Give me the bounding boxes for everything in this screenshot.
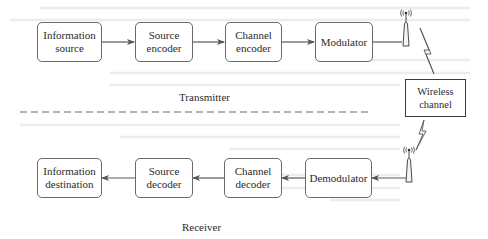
block-line2: encoder	[147, 42, 182, 55]
block-channel-decoder: Channel decoder	[224, 158, 282, 198]
transmitter-label: Transmitter	[179, 91, 230, 103]
block-line1: Channel	[235, 165, 272, 178]
block-line1: Modulator	[321, 36, 367, 49]
lightning-bolt-receive-icon	[416, 120, 426, 150]
block-source-decoder: Source decoder	[135, 158, 193, 198]
block-line1: Information	[43, 29, 96, 42]
block-information-destination: Information destination	[37, 158, 102, 198]
block-line2: decoder	[235, 178, 272, 191]
block-line1: Source	[147, 165, 182, 178]
block-line1: Information	[43, 165, 96, 178]
block-line1: Source	[147, 29, 182, 42]
block-channel-encoder: Channel encoder	[225, 22, 282, 62]
block-line2: decoder	[147, 178, 182, 191]
receiver-label: Receiver	[182, 221, 221, 233]
lightning-bolt-transmit-icon	[420, 28, 434, 74]
transmit-antenna-icon	[401, 10, 412, 47]
block-demodulator: Demodulator	[305, 158, 372, 198]
block-line2: source	[43, 42, 96, 55]
block-source-encoder: Source encoder	[135, 22, 193, 62]
block-information-source: Information source	[37, 22, 102, 62]
block-line1: Channel	[235, 29, 272, 42]
block-modulator: Modulator	[315, 22, 373, 62]
block-line1: Demodulator	[309, 172, 367, 185]
channel-line1: Wireless	[417, 85, 453, 98]
block-line2: destination	[43, 178, 96, 191]
block-line2: encoder	[235, 42, 272, 55]
channel-line2: channel	[417, 98, 453, 111]
receive-antenna-icon	[404, 147, 415, 183]
block-wireless-channel: Wireless channel	[405, 79, 466, 117]
